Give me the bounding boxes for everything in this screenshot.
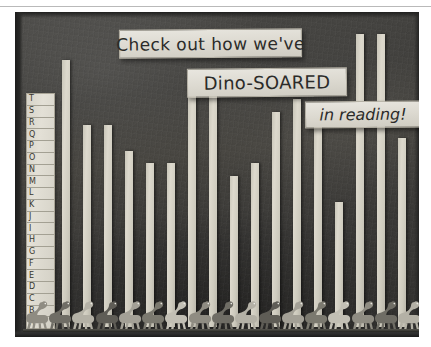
dinosaur-icon: [187, 300, 213, 330]
board-frame-left: [15, 12, 23, 337]
dinosaur-icon: [257, 300, 283, 330]
sign-line-3: in reading!: [305, 100, 419, 128]
axis-tick-label: E: [29, 272, 34, 280]
bar-13: [314, 112, 322, 327]
axis-tick-h: H: [27, 234, 54, 246]
axis-tick-e: E: [27, 269, 54, 281]
dinosaur-icon: [326, 300, 352, 330]
axis-tick-label: F: [29, 260, 34, 268]
bulletin-board-photo: ABCDEFGHIJKLMNOPQRST Check out how we've…: [15, 12, 419, 337]
axis-tick-label: M: [29, 178, 36, 186]
axis-tick-label: P: [29, 142, 34, 150]
bar-15: [356, 34, 364, 327]
dinosaur-row: [23, 296, 419, 330]
dinosaur-icon: [47, 300, 73, 330]
axis-tick-label: J: [29, 213, 31, 221]
axis-tick-i: I: [27, 222, 54, 234]
axis-tick-label: I: [29, 225, 31, 233]
axis-tick-o: O: [27, 152, 54, 164]
bar-11: [272, 112, 280, 327]
dinosaur-icon: [396, 300, 419, 330]
sign-line-1: Check out how we've: [119, 28, 302, 58]
axis-tick-label: H: [29, 236, 35, 244]
dinosaur-icon: [303, 300, 329, 330]
axis-tick-d: D: [27, 281, 54, 293]
dinosaur-icon: [70, 300, 96, 330]
axis-tick-label: T: [29, 95, 34, 103]
dinosaur-icon: [280, 300, 306, 330]
axis-tick-j: J: [27, 211, 54, 223]
dinosaur-icon: [350, 300, 376, 330]
axis-tick-l: L: [27, 187, 54, 199]
axis-tick-t: T: [27, 94, 54, 105]
axis-tick-k: K: [27, 199, 54, 211]
page-top-rule: [0, 6, 431, 7]
dinosaur-icon: [233, 300, 259, 330]
axis-tick-label: S: [29, 107, 34, 115]
axis-tick-f: F: [27, 258, 54, 270]
sign-line-2: Dino-SOARED: [187, 67, 347, 98]
axis-tick-q: Q: [27, 128, 54, 140]
axis-tick-label: G: [29, 248, 35, 256]
axis-tick-label: N: [29, 166, 35, 174]
axis-tick-p: P: [27, 140, 54, 152]
axis-tick-m: M: [27, 175, 54, 187]
dinosaur-icon: [24, 300, 50, 330]
axis-tick-g: G: [27, 246, 54, 258]
bar-12: [293, 99, 301, 327]
board-frame-right: [414, 12, 419, 337]
axis-tick-label: K: [29, 201, 34, 209]
dinosaur-icon: [117, 300, 143, 330]
screenshot-root: ABCDEFGHIJKLMNOPQRST Check out how we've…: [0, 0, 431, 347]
bar-8: [209, 86, 217, 327]
axis-tick-label: Q: [29, 131, 35, 139]
axis-tick-label: O: [29, 154, 35, 162]
axis-tick-n: N: [27, 164, 54, 176]
axis-tick-r: R: [27, 117, 54, 129]
board-frame-top: [15, 12, 419, 18]
axis-tick-label: L: [29, 189, 33, 197]
dinosaur-icon: [163, 300, 189, 330]
dinosaur-icon: [140, 300, 166, 330]
dinosaur-icon: [94, 300, 120, 330]
axis-tick-s: S: [27, 105, 54, 117]
bar-1: [62, 60, 70, 327]
dinosaur-icon: [210, 300, 236, 330]
reading-level-axis: ABCDEFGHIJKLMNOPQRST: [26, 93, 55, 329]
dinosaur-icon: [373, 300, 399, 330]
bar-16: [377, 34, 385, 327]
bar-7: [188, 86, 196, 327]
axis-tick-label: D: [29, 283, 35, 291]
axis-tick-label: R: [29, 119, 35, 127]
